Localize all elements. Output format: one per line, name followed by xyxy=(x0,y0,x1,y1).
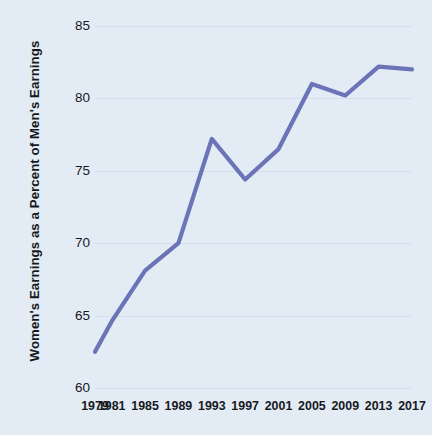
gridline-y-60 xyxy=(95,388,412,389)
y-tick-label-75: 75 xyxy=(56,164,90,178)
y-tick-label-65: 65 xyxy=(56,309,90,323)
plot-area xyxy=(95,26,412,388)
line-chart: Women's Earnings as a Percent of Men's E… xyxy=(0,0,432,435)
x-tick-label-2005: 2005 xyxy=(298,398,326,414)
x-tick-label-1997: 1997 xyxy=(231,398,259,414)
series-line-earnings-ratio xyxy=(95,26,412,388)
x-tick-label-1989: 1989 xyxy=(165,398,193,414)
x-tick-label-2013: 2013 xyxy=(365,398,393,414)
y-tick-label-85: 85 xyxy=(56,19,90,33)
y-tick-label-60: 60 xyxy=(56,381,90,395)
y-tick-label-80: 80 xyxy=(56,91,90,105)
x-tick-label-1993: 1993 xyxy=(198,398,226,414)
x-tick-label-2009: 2009 xyxy=(331,398,359,414)
y-tick-label-70: 70 xyxy=(56,236,90,250)
y-axis-tick-labels: 606570758085 xyxy=(52,26,90,388)
x-tick-label-2017: 2017 xyxy=(398,398,426,414)
x-tick-label-1985: 1985 xyxy=(131,398,159,414)
x-tick-label-2001: 2001 xyxy=(265,398,293,414)
series-polyline xyxy=(95,67,412,352)
x-tick-label-1981: 1981 xyxy=(98,398,126,414)
x-axis-tick-labels: 1979198119851989199319972001200520092013… xyxy=(0,398,432,418)
y-axis-title: Women's Earnings as a Percent of Men's E… xyxy=(22,6,48,396)
